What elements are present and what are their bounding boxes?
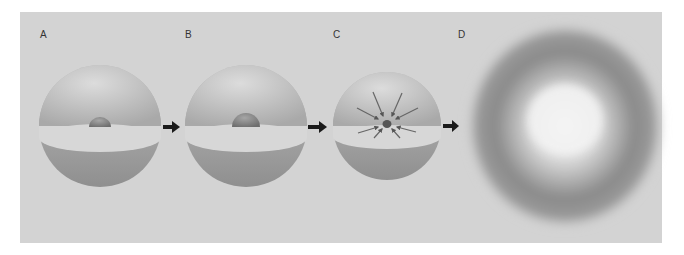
diagram-graphics [0, 0, 684, 255]
explosion-cloud [465, 22, 665, 230]
sphere-c [333, 72, 441, 180]
arrow-c-to-d-icon [443, 120, 459, 132]
arrow-a-to-b-icon [163, 121, 180, 133]
arrow-b-to-c-icon [308, 121, 327, 133]
sphere-a [39, 65, 161, 187]
sphere-b [185, 65, 307, 187]
